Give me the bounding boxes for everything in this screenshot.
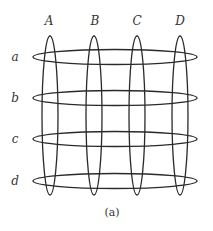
column-label-a: A [44,14,54,28]
column-ellipse [129,36,145,195]
figure-caption: (a) [104,206,119,219]
row-label-b: b [11,91,19,105]
row-ellipse [33,174,197,189]
column-label-c: C [132,14,141,28]
column-ellipse [86,36,102,195]
row-label-d: d [11,174,19,188]
column-label-b: B [90,14,100,28]
column-ellipse [172,36,188,195]
row-label-c: c [12,132,19,146]
row-ellipse [33,50,197,65]
column-label-d: D [174,14,185,28]
row-label-a: a [11,50,18,64]
column-ellipses [42,36,188,195]
column-ellipse [42,36,58,195]
ellipse-grid-diagram: A B C D a b c d (a) [0,0,213,231]
